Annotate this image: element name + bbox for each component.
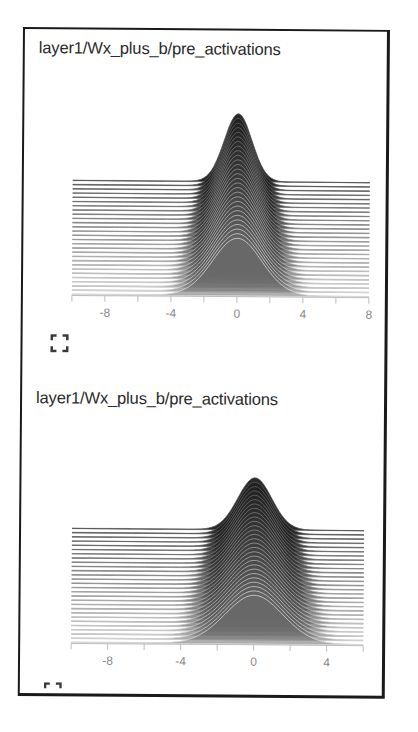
x-tick-label: -8 bbox=[99, 306, 110, 320]
x-tick-label: 4 bbox=[323, 655, 330, 669]
ridgeline-chart[interactable]: -8-404 bbox=[20, 379, 389, 682]
x-tick-label: 0 bbox=[250, 655, 257, 669]
histogram-panel-frame: layer1/Wx_plus_b/pre_activations -8-4048… bbox=[18, 27, 390, 699]
fullscreen-icon bbox=[50, 334, 68, 352]
x-tick-label: -4 bbox=[165, 306, 176, 320]
histogram-card-1: layer1/Wx_plus_b/pre_activations -8-4048 bbox=[22, 29, 387, 392]
x-tick-label: -8 bbox=[102, 654, 113, 668]
x-tick-label: 8 bbox=[365, 308, 372, 322]
fullscreen-button[interactable] bbox=[44, 682, 62, 690]
ridgeline-series bbox=[72, 112, 370, 296]
x-tick-label: 0 bbox=[233, 307, 240, 321]
fullscreen-icon bbox=[44, 682, 62, 690]
fullscreen-button[interactable] bbox=[50, 334, 68, 352]
x-tick-label: 4 bbox=[299, 307, 306, 321]
ridgeline-chart[interactable]: -8-4048 bbox=[23, 29, 392, 332]
histogram-card-2: layer1/Wx_plus_b/pre_activations -8-404 bbox=[20, 379, 384, 701]
x-tick-label: -4 bbox=[175, 654, 186, 668]
ridge-step bbox=[72, 476, 364, 530]
ridgeline-series bbox=[71, 476, 364, 644]
